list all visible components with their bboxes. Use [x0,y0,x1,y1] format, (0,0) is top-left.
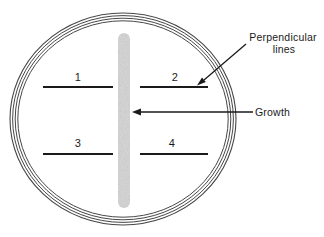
line-label-2: 2 [172,71,178,83]
growth-streak [118,33,130,208]
petri-dish-diagram: 1 2 3 4 Perpendicular lines Growth [0,0,324,237]
perpendicular-lines-arrow-shaft [204,44,246,80]
perpendicular-lines-label-line1: Perpendicular [249,31,317,43]
line-label-4: 4 [169,137,175,149]
perpendicular-lines-label-line2: lines [273,43,296,55]
growth-streak-texture [118,33,130,208]
growth-callout: Growth [132,106,290,118]
line-label-3: 3 [75,137,81,149]
line-label-1: 1 [75,71,81,83]
growth-label: Growth [255,106,290,118]
petri-dish-figure: 1 2 3 4 Perpendicular lines Growth [0,0,324,237]
perpendicular-lines-arrowhead [197,77,206,85]
growth-arrowhead [132,108,141,115]
